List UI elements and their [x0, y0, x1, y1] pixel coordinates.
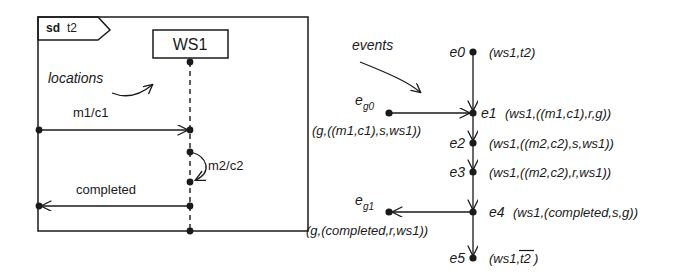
event-id-e3: e3 — [449, 164, 465, 180]
message-label-m1c1: m1/c1 — [73, 105, 108, 120]
gate-event-value-eg0: (g,((m1,c1),s,ws1)) — [312, 123, 421, 138]
event-value-e1: (ws1,((m1,c1),r,g)) — [505, 106, 611, 121]
figure-canvas: sd t2 WS1 locations m1/c1 m2/c — [0, 0, 700, 275]
event-value-e5-overlined-term: t2 — [520, 251, 532, 266]
lifeline-occurrence-dot — [187, 59, 194, 66]
lifeline-occurrence-dot — [187, 179, 194, 186]
message-arrow-m2c2 — [191, 152, 206, 180]
lifeline-occurrence-dot — [187, 127, 194, 134]
event-dot-e0 — [469, 48, 476, 55]
gate-event-subscript-eg1: g1 — [363, 201, 374, 212]
sd-frame-panel: sd t2 WS1 locations m1/c1 m2/c — [36, 17, 308, 234]
events-pointer-curve — [360, 62, 420, 92]
event-dot-e2 — [469, 139, 476, 146]
events-annotation-label: events — [352, 37, 393, 53]
event-value-e3: (ws1,((m2,c2),r,ws1)) — [489, 165, 611, 180]
event-dot-e3 — [469, 168, 476, 175]
event-value-e4: (ws1,(completed,s,g)) — [513, 205, 638, 220]
event-id-e2: e2 — [449, 135, 465, 151]
message-label-completed: completed — [76, 182, 136, 197]
lifeline-name-label: WS1 — [173, 36, 208, 53]
event-id-e5: e5 — [449, 250, 465, 266]
event-id-e0: e0 — [449, 44, 465, 60]
frame-name-label: t2 — [67, 21, 77, 35]
frame-kind-label: sd — [46, 21, 60, 35]
gate-event-id-eg1: e — [355, 192, 363, 208]
gate-event-id-eg0: e — [355, 92, 363, 108]
gate-event-dot-eg1 — [385, 208, 392, 215]
event-value-e0: (ws1,t2) — [489, 45, 535, 60]
event-value-e2: (ws1,((m2,c2),s,ws1)) — [489, 136, 614, 151]
locations-pointer-curve — [112, 85, 152, 96]
events-panel: events e0 (ws1,t2) e g0 (g,((m1,c1),s,ws — [306, 37, 638, 266]
diagram-svg: sd t2 WS1 locations m1/c1 m2/c — [0, 0, 700, 275]
gate-event-value-eg1: (g,(completed,r,ws1)) — [306, 223, 428, 238]
gate-event-subscript-eg0: g0 — [363, 101, 375, 112]
event-value-e5-suffix: ) — [532, 251, 538, 266]
event-value-e5-prefix: (ws1, — [489, 251, 520, 266]
gate-occurrence-dot — [36, 203, 43, 210]
event-id-e1: e1 — [481, 105, 497, 121]
message-label-m2c2: m2/c2 — [208, 158, 243, 173]
event-dot-e5 — [469, 254, 476, 261]
locations-annotation-label: locations — [48, 70, 103, 86]
gate-occurrence-dot — [36, 127, 43, 134]
event-dot-e1 — [469, 109, 476, 116]
lifeline-occurrence-dot — [187, 228, 194, 235]
event-id-e4: e4 — [489, 204, 505, 220]
